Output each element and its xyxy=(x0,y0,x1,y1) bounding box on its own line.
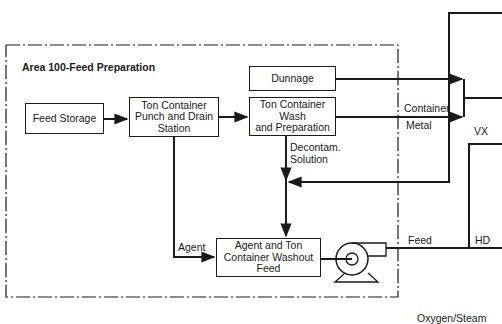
wash-prep-line-3: and Preparation xyxy=(255,122,330,134)
container-label: Container xyxy=(404,102,450,114)
agent-label: Agent xyxy=(178,241,205,253)
washout-line-3: Feed xyxy=(224,263,314,275)
punch-drain-line-3: Station xyxy=(135,123,213,135)
area-title: Area 100-Feed Preparation xyxy=(22,61,155,73)
feed-storage-label: Feed Storage xyxy=(33,113,97,125)
decontam-line-2: Solution xyxy=(290,153,341,165)
washout-feed-box: Agent and Ton Container Washout Feed xyxy=(216,238,321,277)
feed-label: Feed xyxy=(408,234,432,246)
dunnage-box: Dunnage xyxy=(249,66,336,91)
oxygen-steam-label: Oxygen/Steam xyxy=(417,312,486,324)
pump-icon xyxy=(335,243,386,282)
hd-label: HD xyxy=(475,234,490,246)
feed-storage-box: Feed Storage xyxy=(25,103,104,134)
dunnage-label: Dunnage xyxy=(271,73,314,85)
wash-preparation-box: Ton Container Wash and Preparation xyxy=(249,97,336,136)
decontam-solution-label: Decontam. Solution xyxy=(290,141,341,165)
punch-drain-station-box: Ton Container Punch and Drain Station xyxy=(129,97,219,137)
metal-label: Metal xyxy=(406,119,432,131)
vx-label: VX xyxy=(474,125,488,137)
decontam-line-1: Decontam. xyxy=(290,141,341,153)
